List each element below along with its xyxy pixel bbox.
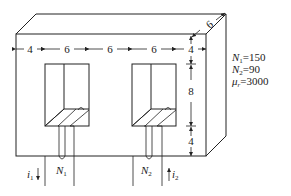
dim-bottom-yoke: 4 [188,135,194,147]
dim-window-height: 8 [188,85,194,97]
dim-right-leg: 4 [188,43,194,55]
window-2 [132,64,176,126]
winding-2-label: N2 [140,164,152,178]
winding-1-coil [45,108,89,187]
magnetic-core-diagram: 4 6 6 6 4 6 8 4 N1=150 N2=90 μr=3000 [0,0,291,196]
top-dimension-row: 4 6 6 6 4 [16,43,206,55]
dim-left-leg: 4 [27,43,33,55]
depth-dimension: 6 [192,13,225,37]
svg-text:i2: i2 [172,168,179,182]
label-mu: μr=3000 [231,75,269,89]
winding-1-label: N1 [55,164,67,178]
dim-center-leg: 6 [107,43,113,55]
dim-window-2: 6 [151,43,157,55]
window-1 [45,64,89,126]
current-i1: i1 [27,168,38,182]
parameter-labels: N1=150 N2=90 μr=3000 [231,51,269,89]
dim-depth: 6 [203,18,215,31]
current-i2: i2 [169,168,179,182]
dim-window-1: 6 [64,43,70,55]
svg-text:i1: i1 [27,168,34,182]
